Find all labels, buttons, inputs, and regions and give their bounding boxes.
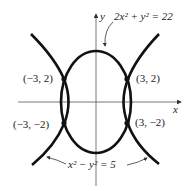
diagram: (−3, 2) (3, 2) (−3, −2) (3, −2) y x 2x² … xyxy=(0,0,194,191)
ellipse-equation-label: 2x² + y² = 22 xyxy=(114,10,173,22)
label-point-3-neg2: (3, −2) xyxy=(135,116,165,129)
hyperbola-right-branch xyxy=(124,34,160,164)
hyperbola-equation-label: x² − y² = 5 xyxy=(67,158,116,170)
label-point-neg3-2: (−3, 2) xyxy=(23,72,53,85)
hyperbola-pointer-right xyxy=(127,158,147,165)
y-axis-label: y xyxy=(99,10,105,22)
point-neg3-neg2 xyxy=(61,120,66,125)
point-3-neg2 xyxy=(124,120,129,125)
label-point-neg3-neg2: (−3, −2) xyxy=(13,118,50,131)
x-axis-label: x xyxy=(172,103,178,115)
ellipse-pointer-arrow xyxy=(105,22,113,46)
hyperbola-pointer-left xyxy=(47,157,66,164)
hyperbola-left-branch xyxy=(31,34,69,165)
label-point-3-2: (3, 2) xyxy=(136,72,160,85)
point-neg3-2 xyxy=(61,76,66,81)
point-3-2 xyxy=(124,76,129,81)
